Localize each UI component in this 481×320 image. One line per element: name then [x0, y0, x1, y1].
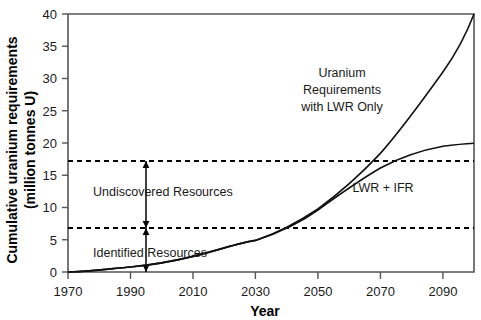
- x-tick-2030: 2030: [241, 284, 270, 299]
- y-axis-ticks: [62, 14, 68, 272]
- uranium-requirements-chart: 40 35 30 25 20 15 10 5 0 1970 1990 2010 …: [0, 0, 481, 320]
- chart-svg: 40 35 30 25 20 15 10 5 0 1970 1990 2010 …: [0, 0, 481, 320]
- y-axis-tick-labels: 40 35 30 25 20 15 10 5 0: [43, 7, 57, 280]
- y-tick-0: 0: [50, 265, 57, 280]
- x-tick-1990: 1990: [116, 284, 145, 299]
- x-axis-tick-labels: 1970 1990 2010 2030 2050 2070 2090: [54, 284, 458, 299]
- annotation-lwr-only-line3: with LWR Only: [300, 100, 383, 114]
- x-tick-2050: 2050: [303, 284, 332, 299]
- y-tick-10: 10: [43, 200, 57, 215]
- series-curves: [68, 14, 474, 272]
- x-axis-title: Year: [250, 303, 280, 319]
- x-axis-ticks: [68, 272, 443, 279]
- curve-lwr-only: [68, 14, 474, 272]
- y-axis-title-line2: (million tonnes U): [22, 91, 38, 209]
- x-tick-2010: 2010: [179, 284, 208, 299]
- x-tick-2070: 2070: [366, 284, 395, 299]
- x-tick-1970: 1970: [54, 284, 83, 299]
- annotation-lwr-only: Uranium Requirements with LWR Only: [300, 66, 383, 114]
- annotation-lwr-plus-ifr: LWR + IFR: [352, 181, 413, 195]
- x-tick-2090: 2090: [428, 284, 457, 299]
- y-tick-5: 5: [50, 233, 57, 248]
- y-tick-20: 20: [43, 136, 57, 151]
- annotation-lwr-only-line2: Requirements: [303, 83, 381, 97]
- annotation-lwr-only-line1: Uranium: [318, 66, 365, 80]
- y-axis-title-line1: Cumulative uranium requirements: [4, 36, 20, 263]
- annotation-identified-resources: Identified Resources: [93, 246, 207, 260]
- plot-frame: [68, 14, 474, 272]
- y-tick-35: 35: [43, 39, 57, 54]
- annotation-undiscovered-resources: Undiscovered Resources: [93, 185, 233, 199]
- y-tick-40: 40: [43, 7, 57, 22]
- y-tick-15: 15: [43, 168, 57, 183]
- y-tick-25: 25: [43, 104, 57, 119]
- y-tick-30: 30: [43, 71, 57, 86]
- y-axis-title: Cumulative uranium requirements (million…: [4, 36, 38, 263]
